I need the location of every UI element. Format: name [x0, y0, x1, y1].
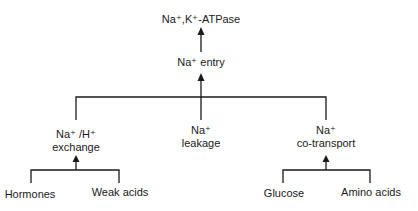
- node-hormones: Hormones: [5, 188, 56, 201]
- node-label-line1: Na⁺: [182, 124, 221, 137]
- arrowhead-icon: [73, 155, 80, 162]
- node-weak-acids: Weak acids: [92, 186, 149, 199]
- exchange-stimuli-bracket: [31, 170, 119, 183]
- node-glucose: Glucose: [264, 187, 304, 200]
- node-label-line2: exchange: [52, 141, 100, 154]
- node-na-cotransport: Na⁺ co-transport: [297, 124, 356, 150]
- node-na-k-atpase: Na⁺,K⁺-ATPase: [162, 13, 240, 26]
- node-na-entry: Na⁺ entry: [177, 56, 225, 69]
- node-na-h-exchange: Na⁺ /H⁺ exchange: [52, 128, 100, 154]
- connector-lines: [0, 0, 418, 211]
- node-label-line2: co-transport: [297, 137, 356, 150]
- node-label-line2: leakage: [182, 137, 221, 150]
- node-na-leakage: Na⁺ leakage: [182, 124, 221, 150]
- node-amino-acids: Amino acids: [341, 186, 401, 199]
- arrowhead-icon: [323, 155, 330, 162]
- arrowhead-icon: [198, 73, 205, 81]
- cotransport-stimuli-bracket: [283, 170, 370, 183]
- node-label-line1: Na⁺ /H⁺: [52, 128, 100, 141]
- arrowhead-icon: [198, 27, 205, 35]
- node-label-line1: Na⁺: [297, 124, 356, 137]
